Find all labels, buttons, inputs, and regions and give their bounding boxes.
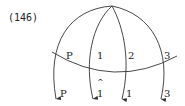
example-number: (146) xyxy=(8,12,38,23)
strand-1-top-label: 1 xyxy=(97,50,103,61)
strand-3-bottom-label: 3 xyxy=(164,88,170,99)
strand-p-bottom-label: P xyxy=(60,88,67,99)
strand-diagram: (146) P 1 2 3 P ^ 1 1 3 xyxy=(0,0,185,106)
strand-3-top-label: 3 xyxy=(164,50,170,61)
diagram-canvas: (146) P 1 2 3 P ^ 1 1 3 xyxy=(0,0,185,106)
strand-3 xyxy=(112,6,164,99)
strand-1-bottom-label: 1 xyxy=(97,88,103,99)
strand-2-top-label: 2 xyxy=(128,50,134,61)
strand-2 xyxy=(112,6,126,99)
strand-p-top-label: P xyxy=(66,50,73,61)
strand-2-bottom-label: 1 xyxy=(126,88,132,99)
hat-accent: ^ xyxy=(97,77,104,86)
